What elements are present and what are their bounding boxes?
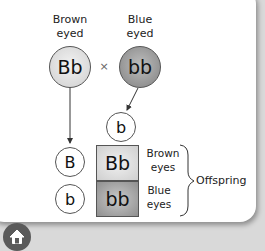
phenotype-brown-line2: eyes — [143, 160, 183, 174]
home-icon — [8, 228, 26, 246]
offspring-Bb-cell: Bb — [96, 145, 139, 181]
offspring-bb-cell: bb — [96, 181, 139, 217]
offspring-phenotype-blue: Blue eyes — [141, 183, 177, 211]
home-button[interactable] — [3, 223, 31, 251]
cross-symbol: × — [97, 60, 111, 74]
parent2-label: Blue eyed — [118, 13, 162, 41]
parent1-label-line1: Brown — [48, 13, 92, 27]
gamete-parent2: b — [106, 112, 136, 142]
parent2-label-line1: Blue — [118, 13, 162, 27]
phenotype-brown-line1: Brown — [143, 146, 183, 160]
parent1-label: Brown eyed — [48, 13, 92, 41]
phenotype-blue-line2: eyes — [141, 197, 177, 211]
phenotype-blue-line1: Blue — [141, 183, 177, 197]
parent2-genotype: bb — [119, 46, 161, 88]
parent1-genotype: Bb — [49, 46, 91, 88]
gamete-parent1-b: b — [55, 184, 85, 214]
offspring-label: Offspring — [196, 174, 252, 188]
parent1-label-line2: eyed — [48, 27, 92, 41]
offspring-phenotype-brown: Brown eyes — [143, 146, 183, 174]
parent2-label-line2: eyed — [118, 27, 162, 41]
gamete-parent1-B: B — [55, 147, 85, 177]
